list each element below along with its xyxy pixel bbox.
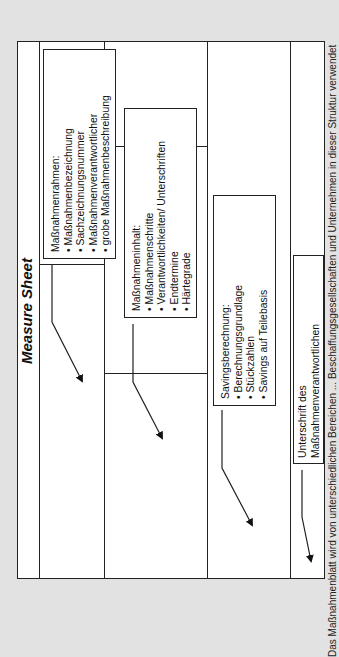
arrow-icon [133,324,162,438]
arrow-icon [52,264,82,381]
figure-caption: Das Maßnahmenblatt wird von unterschiedl… [327,20,339,657]
arrow-icon [302,470,311,561]
arrow-icon [222,410,252,525]
callout-arrows [0,0,339,657]
